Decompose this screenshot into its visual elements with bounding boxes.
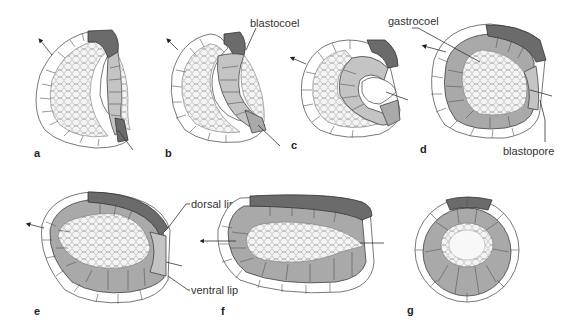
panel-letter-e: e — [34, 305, 40, 317]
axis-line — [258, 125, 280, 146]
panel-g: g — [407, 197, 519, 316]
panel-letter-d: d — [420, 143, 427, 155]
panel-e: dorsal lip ventral lip e — [28, 192, 238, 317]
movement-arrow — [168, 40, 178, 50]
panel-letter-a: a — [34, 147, 41, 159]
panel-b: blastocoel b — [165, 17, 300, 159]
blastocoel-leader — [246, 28, 256, 50]
dorsal-lip-leader — [168, 204, 190, 228]
label-gastrocoel: gastrocoel — [388, 15, 439, 27]
label-blastopore: blastopore — [503, 145, 554, 157]
panel-d: gastrocoel blastopore d — [388, 15, 554, 157]
label-ventral-lip: ventral lip — [191, 284, 238, 296]
archenteron — [449, 230, 485, 260]
label-blastocoel: blastocoel — [250, 17, 300, 29]
panel-c: c — [291, 40, 408, 151]
panel-letter-c: c — [291, 139, 297, 151]
panel-f: f — [202, 195, 384, 317]
movement-arrow — [40, 40, 52, 55]
panel-letter-f: f — [221, 305, 225, 317]
gastrulation-diagram: a blastocoel b — [0, 0, 564, 332]
movement-arrow — [292, 58, 306, 64]
panel-letter-g: g — [407, 304, 414, 316]
ventral-lip-leader — [168, 276, 190, 290]
panel-a: a — [34, 30, 133, 159]
panel-letter-b: b — [165, 147, 172, 159]
